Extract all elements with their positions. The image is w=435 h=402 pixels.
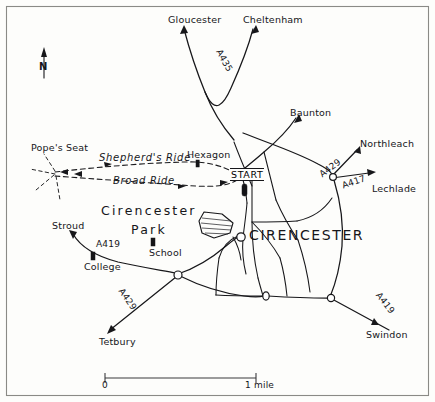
scale-bar <box>105 373 256 383</box>
junction-swindon <box>327 294 334 301</box>
school-building-marker <box>151 238 155 246</box>
place-label-northleach: Northleach <box>360 139 414 149</box>
ride-arrow-popes-seat <box>60 169 68 175</box>
place-label-stroud: Stroud <box>52 221 85 231</box>
place-label-cheltenham: Cheltenham <box>243 15 303 25</box>
junction-school <box>174 271 182 279</box>
scale-start-label: 0 <box>102 381 108 390</box>
feature-label-hexagon: Hexagon <box>187 150 231 160</box>
place-label-lechlade: Lechlade <box>372 184 416 194</box>
start-point-marker <box>242 184 247 196</box>
street-east-lower <box>298 240 310 292</box>
street-west-spine <box>243 203 247 238</box>
ride-label-broad-ride: Broad Ride <box>113 176 175 187</box>
street-cross-upper <box>252 221 297 222</box>
ride-label-shepherds-ride: Shepherd's Ride <box>99 153 191 164</box>
road-to-tetbury <box>110 277 176 330</box>
avenue-west <box>30 169 55 174</box>
north-label: N <box>39 62 48 73</box>
arrow-lechlade <box>367 169 376 176</box>
arrow-gloucester <box>180 25 188 34</box>
town-label-cirencester: CIRENCESTER <box>249 228 364 243</box>
junction-south <box>263 292 269 300</box>
road-west-approach <box>178 236 240 274</box>
avenue-south <box>56 176 60 200</box>
place-label-tetbury: Tetbury <box>99 337 136 347</box>
place-label-baunton: Baunton <box>290 108 331 118</box>
avenue-northwest <box>44 154 55 171</box>
place-label-gloucester: Gloucester <box>168 15 221 25</box>
amphitheatre-feature <box>199 212 233 238</box>
start-marker-label: START <box>230 168 264 181</box>
road-southwest-loop <box>180 276 264 297</box>
junction-northleach <box>330 174 337 181</box>
street-northeast-radial <box>264 152 276 200</box>
shepherds-ride-path <box>55 162 236 174</box>
college-building-marker <box>91 252 95 260</box>
road-to-baunton <box>240 118 296 172</box>
road-number-a419-stroud: A419 <box>96 240 120 249</box>
street-to-east-ring <box>297 198 332 221</box>
street-se-lower <box>280 258 287 296</box>
hexagon-marker <box>196 160 199 167</box>
hand-drawn-map: N Gloucester Cheltenham Baunton Northlea… <box>0 0 435 402</box>
street-southwest-lower <box>216 258 219 295</box>
feature-label-college: College <box>84 262 121 272</box>
ride-arrow-west-upper <box>74 171 82 177</box>
street-west-lower <box>243 238 246 274</box>
scale-end-label: 1 mile <box>245 381 274 390</box>
arrow-cheltenham <box>251 25 259 34</box>
street-spine-to-ring <box>258 278 263 296</box>
place-label-swindon: Swindon <box>366 330 408 340</box>
road-ring-south <box>268 296 327 298</box>
junction-town-west <box>237 233 245 241</box>
feature-label-school: School <box>149 248 182 258</box>
road-to-gloucester <box>184 29 234 140</box>
park-label-line2: Park <box>131 221 167 239</box>
feature-label-popes-seat: Pope's Seat <box>31 143 88 154</box>
ride-arrow-to-start <box>220 180 228 186</box>
park-label-line1: Cirencester <box>101 202 197 220</box>
avenue-southwest <box>36 175 54 190</box>
